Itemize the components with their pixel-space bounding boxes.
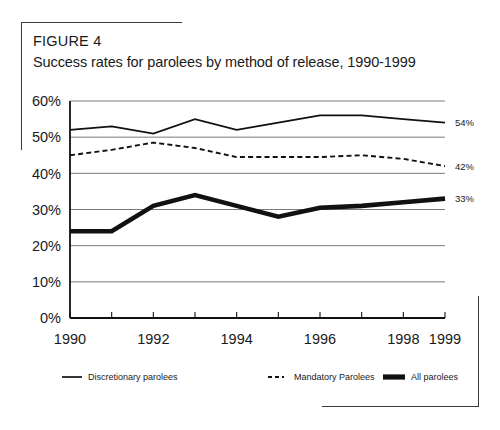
chart-container: 0%10%20%30%40%50%60% 1990199219941996199… xyxy=(0,0,500,430)
y-axis-tick-label: 30% xyxy=(32,202,61,218)
series-end-label: 33% xyxy=(455,193,475,204)
x-axis-tick-label: 1998 xyxy=(387,331,419,347)
x-axis-tick-label: 1999 xyxy=(429,331,461,347)
legend-label-discretionary-parolees: Discretionary parolees xyxy=(88,372,178,382)
series-end-labels: 54%42%33% xyxy=(455,117,475,204)
x-axis-tick-label: 1990 xyxy=(54,331,86,347)
y-axis-tick-label: 10% xyxy=(32,274,61,290)
y-axis-tick-label: 50% xyxy=(32,129,61,145)
series-line-mandatory-parolees xyxy=(70,143,445,167)
series-line-discretionary-parolees xyxy=(70,115,445,133)
x-axis-tick-label: 1996 xyxy=(304,331,336,347)
series-end-label: 54% xyxy=(455,117,475,128)
x-axis-tick-label: 1994 xyxy=(221,331,253,347)
legend-label-mandatory-parolees: Mandatory Parolees xyxy=(294,372,375,382)
y-axis-tick-label: 20% xyxy=(32,238,61,254)
series-line-all-parolees xyxy=(70,195,445,231)
y-axis-tick-label: 60% xyxy=(32,93,61,109)
line-chart: 0%10%20%30%40%50%60% 1990199219941996199… xyxy=(0,0,500,430)
y-axis-tick-labels: 0%10%20%30%40%50%60% xyxy=(32,93,61,326)
series-end-label: 42% xyxy=(455,161,475,172)
legend-label-all-parolees: All parolees xyxy=(411,372,459,382)
chart-legend: Discretionary paroleesMandatory Parolees… xyxy=(62,372,459,382)
x-axis-tick-labels: 199019921994199619981999 xyxy=(54,331,461,347)
y-axis-tick-label: 0% xyxy=(40,310,61,326)
y-axis-tick-label: 40% xyxy=(32,166,61,182)
x-axis-tick-label: 1992 xyxy=(137,331,169,347)
